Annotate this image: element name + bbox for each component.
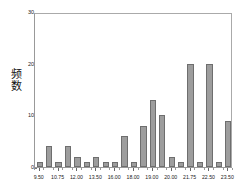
x-axis-tick-mark	[227, 168, 228, 171]
x-axis-tick-label: 23.50	[221, 174, 234, 180]
x-axis-minor-tick	[213, 168, 214, 170]
bar	[65, 146, 71, 167]
x-axis-minor-tick	[157, 168, 158, 170]
x-axis-tick-mark	[95, 168, 96, 171]
x-axis-tick-label: 18.00	[127, 174, 140, 180]
x-axis-tick-mark	[208, 168, 209, 171]
x-axis-minor-tick	[194, 168, 195, 170]
x-axis-minor-tick	[34, 168, 35, 170]
x-axis-tick-label: 21.75	[183, 174, 196, 180]
x-axis-minor-tick	[223, 168, 224, 170]
x-axis-minor-tick	[81, 168, 82, 170]
bar	[187, 64, 193, 167]
bar-series	[35, 14, 231, 167]
x-axis-tick-label: 16.00	[108, 174, 121, 180]
bar	[159, 115, 165, 167]
y-axis-tick-label: 20	[0, 62, 38, 68]
x-axis-tick-label: 12.00	[70, 174, 83, 180]
bar	[197, 162, 203, 167]
x-axis-minor-tick	[72, 168, 73, 170]
y-axis-title-char-2: 数	[6, 80, 26, 92]
x-axis-minor-tick	[147, 168, 148, 170]
bar	[55, 162, 61, 167]
x-axis-minor-tick	[204, 168, 205, 170]
bar	[131, 162, 137, 167]
x-axis-tick-label: 10.75	[51, 174, 64, 180]
x-axis-minor-tick	[62, 168, 63, 170]
x-axis-minor-tick	[128, 168, 129, 170]
x-axis-tick-mark	[39, 168, 40, 171]
bar	[84, 162, 90, 167]
x-axis-minor-tick	[43, 168, 44, 170]
x-axis-tick-label: 13.50	[89, 174, 102, 180]
x-axis-tick-mark	[76, 168, 77, 171]
x-axis-minor-tick	[138, 168, 139, 170]
histogram-figure: 频 数 0102030 9.5010.7512.0013.5016.0018.0…	[0, 0, 243, 191]
x-axis-tick-label: 19.00	[145, 174, 158, 180]
y-axis-tick-label: 10	[0, 113, 38, 119]
y-axis-title: 频 数	[6, 68, 26, 92]
bar	[121, 136, 127, 167]
x-axis-minor-tick	[175, 168, 176, 170]
bar	[216, 162, 222, 167]
x-axis-tick-label: 22.50	[202, 174, 215, 180]
x-axis-tick-mark	[190, 168, 191, 171]
bar	[206, 64, 212, 167]
bar	[74, 157, 80, 167]
x-axis-minor-tick	[109, 168, 110, 170]
bar	[178, 162, 184, 167]
x-axis-tick-mark	[171, 168, 172, 171]
x-axis-minor-tick	[185, 168, 186, 170]
x-axis-minor-tick	[100, 168, 101, 170]
y-axis-title-char-1: 频	[6, 68, 26, 80]
x-axis-tick-mark	[152, 168, 153, 171]
bar	[37, 162, 43, 167]
x-axis-minor-tick	[53, 168, 54, 170]
plot-area	[34, 13, 232, 168]
x-axis-minor-tick	[232, 168, 233, 170]
bar	[150, 100, 156, 167]
x-axis-minor-tick	[119, 168, 120, 170]
y-axis-tick-label: 30	[0, 10, 38, 16]
bar	[46, 146, 52, 167]
x-axis-tick-mark	[58, 168, 59, 171]
x-axis-tick-label: 9.50	[34, 174, 44, 180]
x-axis-tick-mark	[114, 168, 115, 171]
y-axis-tick-label: 0	[0, 165, 38, 171]
bar	[112, 162, 118, 167]
bar	[169, 157, 175, 167]
x-axis-tick-label: 20.00	[164, 174, 177, 180]
x-axis-minor-tick	[91, 168, 92, 170]
bar	[103, 162, 109, 167]
bar	[140, 126, 146, 167]
x-axis-tick-mark	[133, 168, 134, 171]
bar	[93, 157, 99, 167]
x-axis-minor-tick	[166, 168, 167, 170]
bar	[225, 121, 231, 168]
